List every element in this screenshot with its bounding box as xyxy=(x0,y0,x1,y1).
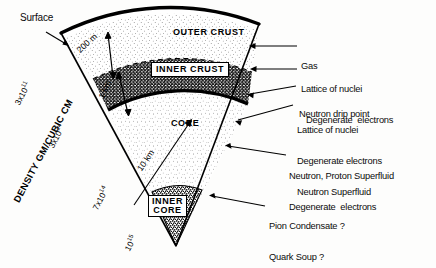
inner-core-line2: CORE xyxy=(152,206,183,215)
callout-inner-core-line-0: Pion Condensate ? xyxy=(269,221,345,231)
figure-canvas: Surface OUTER CRUST INNER CRUST CORE INN… xyxy=(0,0,436,268)
callout-inner-core-line-1: Quark Soup ? xyxy=(269,252,345,262)
leader-drip xyxy=(250,86,296,94)
leader-core xyxy=(228,146,286,155)
callout-inner-core-composition: Pion Condensate ? Quark Soup ? xyxy=(269,200,345,268)
callout-inner-crust-line-0: Lattice of nuclei xyxy=(297,125,382,135)
surface-label: Surface xyxy=(20,12,53,23)
region-label-outer-crust: OUTER CRUST xyxy=(169,26,249,39)
leader-inner-core xyxy=(212,196,265,206)
callout-core-line-0: Neutron, Proton Superfluid xyxy=(289,171,394,181)
region-label-core: CORE xyxy=(167,117,203,130)
region-label-inner-core: INNER CORE xyxy=(148,195,187,217)
region-label-inner-crust: INNER CRUST xyxy=(151,62,229,77)
